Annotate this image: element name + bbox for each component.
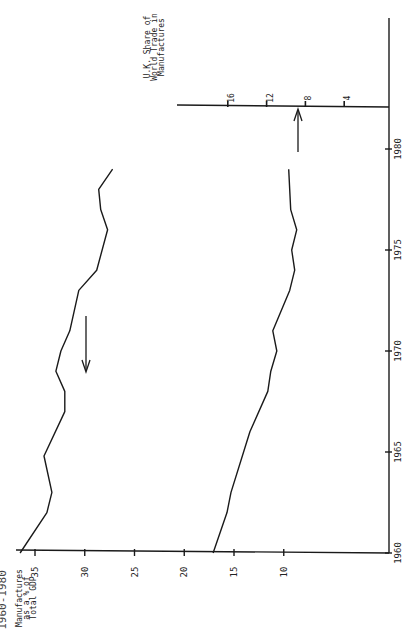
gdp-axis-title: Total GDP — [29, 576, 38, 620]
year-tick-label: 1975 — [393, 239, 403, 261]
share-tick-label: 12 — [266, 93, 275, 103]
share-tick-label: 16 — [227, 93, 236, 103]
gdp-share-line — [20, 169, 113, 553]
gdp-tick-label: 15 — [229, 567, 239, 578]
axis-titles: 1960-1980Manufacturesas a % ofTotal GDPU… — [0, 13, 166, 630]
gdp-tick-label: 10 — [279, 567, 289, 578]
share-axis-title: Manufactures — [157, 18, 166, 76]
year-tick-label: 1980 — [393, 138, 403, 160]
gdp-tick-label: 25 — [130, 567, 140, 578]
share-tick-label: 4 — [343, 95, 352, 100]
chart-title: 1960-1980 — [0, 570, 9, 630]
world-trade-share-line — [213, 169, 297, 553]
gdp-value-axis — [16, 550, 389, 553]
year-tick-label: 1965 — [393, 441, 403, 463]
year-tick-label: 1960 — [393, 542, 403, 564]
rotated-line-chart: 19601965197019751980353025201510161284 1… — [0, 0, 404, 635]
gdp-tick-label: 35 — [30, 567, 40, 578]
trend-arrows — [82, 109, 302, 372]
data-lines — [20, 169, 297, 553]
share-tick-label: 8 — [304, 95, 313, 100]
gdp-tick-label: 20 — [179, 567, 189, 578]
year-tick-label: 1970 — [393, 340, 403, 362]
gdp-tick-label: 30 — [80, 567, 90, 578]
chart-axes — [16, 18, 389, 553]
share-value-axis — [177, 105, 389, 107]
